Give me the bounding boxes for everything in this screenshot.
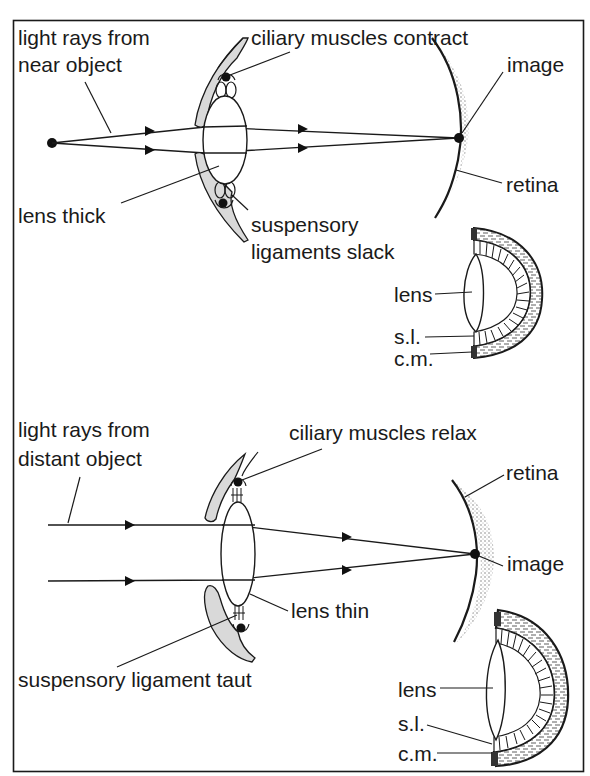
lens-thin [221,502,255,606]
distant-suspensory-lower [233,606,245,620]
arrow-icon [125,576,135,586]
inset-distant-label-cm: c.m. [398,742,438,765]
label-light-rays-near-1: light rays from [18,26,150,49]
inset-distant-cm-top [494,612,501,626]
label-retina-near: retina [506,173,559,196]
arrow-icon [125,520,135,530]
retina-distant-shading [452,480,494,645]
leader-light-rays-distant [68,477,80,523]
inset-near-label-sl: s.l. [394,325,421,348]
label-suspensory-taut: suspensory ligament taut [18,668,252,691]
accommodation-diagram: light rays from near object ciliary musc… [0,0,590,776]
inset-near-lens [464,254,484,332]
distant-object-panel: light rays from distant object ciliary m… [18,418,568,766]
near-object-panel: light rays from near object ciliary musc… [18,26,564,370]
inset-distant-lens [486,640,505,740]
inset-distant-eye-section: lens s.l. c.m. [398,610,568,766]
label-light-rays-distant-2: distant object [18,447,142,470]
leader-suspensory-slack [232,195,248,210]
arrow-icon [298,124,308,134]
distant-ray-upper [48,525,475,554]
arrow-icon [342,565,352,575]
label-suspensory-1: suspensory [251,213,359,236]
inset-near-eye-section: lens s.l. c.m. [394,228,542,370]
leader-retina-near [456,170,502,183]
leader-inset-near-sl [425,336,474,337]
near-image-point [454,133,464,143]
label-retina-distant: retina [506,461,559,484]
leader-image-near [462,72,503,133]
arrow-icon [342,532,352,542]
distant-suspensory-upper [231,488,243,502]
inset-near-label-lens: lens [394,283,433,306]
leader-lens-thin [250,594,288,611]
lens-thick [203,96,247,184]
label-suspensory-2: ligaments slack [251,240,395,263]
arrow-icon [298,143,308,153]
leader-inset-near-cm [430,352,472,354]
label-lens-thick: lens thick [18,204,106,227]
retina-near [432,38,461,218]
near-ray-upper [52,127,458,143]
inset-near-cm-top [471,228,477,240]
inset-distant-label-lens: lens [398,678,437,701]
inset-distant-label-sl: s.l. [398,712,425,735]
distant-ray-lower [48,554,475,581]
label-ciliary-contract: ciliary muscles contract [251,26,468,49]
inset-distant-cm-bottom [491,752,498,766]
leader-light-rays-near [85,82,111,133]
label-light-rays-near-2: near object [18,53,122,76]
label-ciliary-relax: ciliary muscles relax [289,421,477,444]
label-image-distant: image [507,552,564,575]
leader-retina-distant [465,475,504,497]
leader-suspensory-taut [117,615,237,667]
inset-near-label-cm: c.m. [394,347,434,370]
label-light-rays-distant-1: light rays from [18,418,150,441]
leader-ciliary-relax [242,449,322,480]
arrow-icon [145,145,155,155]
distant-image-point [470,549,480,559]
label-image-near: image [507,53,564,76]
near-ray-lower [52,138,458,153]
label-lens-thin: lens thin [291,599,369,622]
retina-near-shading [432,38,469,220]
arrow-icon [145,126,155,136]
